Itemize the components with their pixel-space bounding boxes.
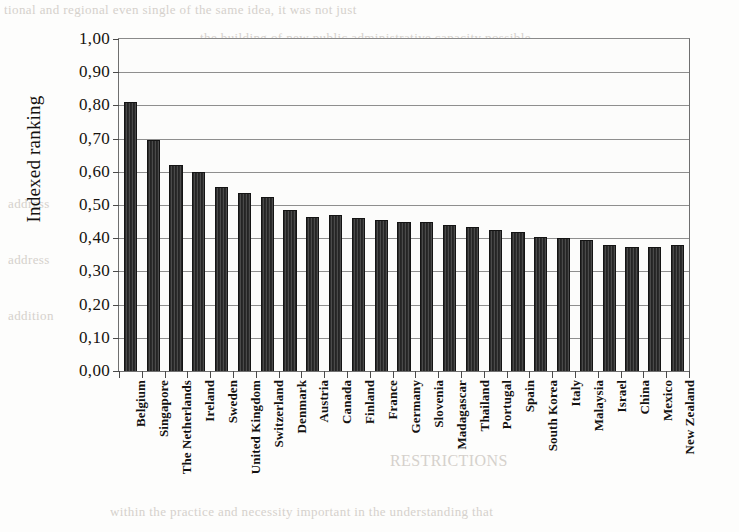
bar-slot: [119, 39, 142, 371]
x-label-slot: Portugal: [484, 380, 507, 510]
plot-area: 1,000,900,800,700,600,500,400,300,200,10…: [118, 38, 690, 372]
bar: [534, 237, 547, 371]
bleed-through-line-1: tional and regional even single of the s…: [4, 2, 357, 18]
chart-figure: tional and regional even single of the s…: [0, 0, 739, 532]
x-axis-tick-mark: [552, 371, 553, 378]
x-axis-tick-mark: [689, 371, 690, 378]
bar: [420, 222, 433, 371]
bar-slot: [643, 39, 666, 371]
x-axis-tick-mark: [324, 371, 325, 378]
bar: [671, 245, 684, 371]
bar: [192, 172, 205, 371]
x-axis-tick-label: New Zealand: [682, 380, 698, 454]
x-label-slot: South Korea: [530, 380, 553, 510]
bar-slot: [370, 39, 393, 371]
x-label-slot: Sweden: [210, 380, 233, 510]
bar-slot: [575, 39, 598, 371]
bar: [329, 215, 342, 371]
bar: [238, 193, 251, 371]
x-axis-tick-mark: [119, 371, 120, 378]
bar: [215, 187, 228, 371]
bar-slot: [233, 39, 256, 371]
x-axis-tick-mark: [507, 371, 508, 378]
bar: [466, 227, 479, 371]
x-axis-tick-mark: [165, 371, 166, 378]
bar-slot: [210, 39, 233, 371]
bar-slot: [165, 39, 188, 371]
bar-slot: [142, 39, 165, 371]
x-axis-tick-mark: [142, 371, 143, 378]
x-axis-tick-mark: [301, 371, 302, 378]
x-label-slot: Thailand: [461, 380, 484, 510]
x-label-slot: Germany: [393, 380, 416, 510]
x-label-slot: Malaysia: [576, 380, 599, 510]
bar: [261, 197, 274, 371]
x-axis-tick-mark: [233, 371, 234, 378]
y-axis-label: Indexed ranking: [23, 59, 45, 259]
bar-slot: [393, 39, 416, 371]
bar: [352, 218, 365, 371]
bar-slot: [552, 39, 575, 371]
bar: [147, 140, 160, 371]
bar: [124, 102, 137, 371]
x-label-slot: Ireland: [187, 380, 210, 510]
bar-slot: [529, 39, 552, 371]
x-label-slot: Finland: [347, 380, 370, 510]
bar-slot: [461, 39, 484, 371]
bar-slot: [438, 39, 461, 371]
x-label-slot: The Netherlands: [164, 380, 187, 510]
bar-slot: [484, 39, 507, 371]
x-label-slot: Israel: [598, 380, 621, 510]
x-label-slot: China: [621, 380, 644, 510]
bar-slot: [324, 39, 347, 371]
x-label-slot: New Zealand: [667, 380, 690, 510]
x-axis-labels: BelgiumSingaporeThe NetherlandsIrelandSw…: [118, 380, 690, 510]
x-axis-tick-mark: [210, 371, 211, 378]
x-label-slot: Singapore: [141, 380, 164, 510]
bar-slot: [256, 39, 279, 371]
x-label-slot: Austria: [301, 380, 324, 510]
bar-slot: [621, 39, 644, 371]
x-axis-tick-mark: [598, 371, 599, 378]
x-label-slot: Belgium: [118, 380, 141, 510]
x-axis-tick-mark: [415, 371, 416, 378]
x-label-slot: Madagascar: [438, 380, 461, 510]
x-axis-tick-mark: [666, 371, 667, 378]
x-axis-tick-mark: [438, 371, 439, 378]
x-axis-tick-mark: [621, 371, 622, 378]
bar-slot: [347, 39, 370, 371]
bar: [169, 165, 182, 371]
bar: [306, 217, 319, 371]
bar: [283, 210, 296, 371]
bar: [557, 238, 570, 371]
x-axis-tick-mark: [256, 371, 257, 378]
bar-slot: [415, 39, 438, 371]
x-axis-tick-mark: [187, 371, 188, 378]
bar-slot: [301, 39, 324, 371]
x-label-slot: Canada: [324, 380, 347, 510]
bar-slot: [279, 39, 302, 371]
bar-slot: [507, 39, 530, 371]
bar: [443, 225, 456, 371]
x-label-slot: Switzerland: [255, 380, 278, 510]
x-axis-tick-mark: [347, 371, 348, 378]
x-label-slot: Slovenia: [415, 380, 438, 510]
x-axis-tick-mark: [484, 371, 485, 378]
bar-slot: [666, 39, 689, 371]
x-label-slot: Spain: [507, 380, 530, 510]
x-axis-tick-mark: [575, 371, 576, 378]
bar: [648, 247, 661, 372]
x-label-slot: Mexico: [644, 380, 667, 510]
x-axis-tick-mark: [529, 371, 530, 378]
bar: [397, 222, 410, 371]
x-axis-tick-mark: [393, 371, 394, 378]
x-label-slot: France: [370, 380, 393, 510]
bar: [580, 240, 593, 371]
bar-slot: [187, 39, 210, 371]
x-label-slot: United Kingdom: [232, 380, 255, 510]
bar: [603, 245, 616, 371]
bar-slot: [598, 39, 621, 371]
x-axis-tick-mark: [370, 371, 371, 378]
bar: [375, 220, 388, 371]
x-axis-tick-mark: [279, 371, 280, 378]
